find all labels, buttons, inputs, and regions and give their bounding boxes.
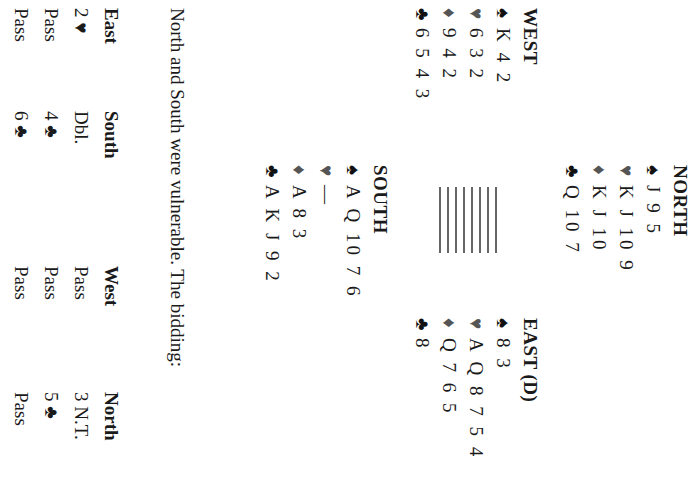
spade-icon: ♠ (640, 165, 667, 185)
bid-west: Pass (40, 266, 62, 300)
north-hearts: K J 10 9 (616, 185, 637, 273)
south-hand: SOUTH ♠A Q 10 7 6 ♥— ♦A 8 3 ♣A K J 9 2 (259, 165, 394, 298)
bid-east: 2 ♥ (70, 8, 92, 34)
east-spades: 8 3 (493, 338, 514, 371)
west-hand: WEST ♠K 4 2 ♥6 3 2 ♦9 4 2 ♣6 5 4 3 (409, 8, 544, 101)
bid-west: Pass (10, 266, 32, 300)
header-south: South (100, 111, 122, 159)
south-clubs: A K J 9 2 (262, 185, 283, 284)
diamond-icon: ♦ (436, 8, 463, 28)
spade-icon: ♠ (490, 318, 517, 338)
bid-north: 3 N.T. (70, 392, 92, 440)
divider (487, 187, 489, 253)
diamond-icon: ♦ (436, 318, 463, 338)
north-hand: NORTH ♠J 9 5 ♥K J 10 9 ♦K J 10 ♣Q 10 7 (559, 165, 694, 273)
club-icon: ♣ (409, 8, 436, 28)
club-icon: ♣ (409, 318, 436, 338)
divider (471, 187, 473, 253)
bid-west: Pass (70, 266, 92, 300)
bid-south: 4 ♣ (40, 111, 62, 138)
south-diamonds: A 8 3 (289, 185, 310, 241)
club-icon: ♣ (559, 165, 586, 185)
spade-icon: ♠ (340, 165, 367, 185)
header-east: East (100, 8, 122, 44)
bid-south: 6 ♣ (10, 111, 32, 138)
west-title: WEST (517, 8, 544, 101)
divider (495, 187, 497, 253)
divider (455, 187, 457, 253)
table-compass-graphic (439, 187, 497, 253)
north-clubs: Q 10 7 (562, 185, 583, 255)
divider (447, 187, 449, 253)
divider (439, 187, 441, 253)
club-icon: ♣ (259, 165, 286, 185)
east-clubs: 8 (412, 338, 433, 351)
north-title: NORTH (667, 165, 694, 273)
bid-east: Pass (40, 8, 62, 42)
west-hearts: 6 3 2 (466, 28, 487, 81)
north-diamonds: K J 10 (589, 185, 610, 253)
south-hearts: — (316, 185, 337, 207)
vulnerability-text: North and South were vulnerable. The bid… (166, 8, 188, 367)
west-spades: K 4 2 (493, 28, 514, 85)
south-spades: A Q 10 7 6 (343, 185, 364, 298)
bid-north: Pass (10, 392, 32, 426)
header-west: West (100, 266, 122, 306)
divider (479, 187, 481, 253)
heart-icon: ♥ (463, 318, 490, 338)
bid-south: Dbl. (70, 111, 92, 144)
heart-icon: ♥ (313, 165, 340, 185)
heart-icon: ♥ (613, 165, 640, 185)
east-title: EAST (D) (517, 318, 544, 459)
bid-east: Pass (10, 8, 32, 42)
heart-icon: ♥ (463, 8, 490, 28)
diamond-icon: ♦ (286, 165, 313, 185)
north-spades: J 9 5 (643, 185, 664, 236)
south-title: SOUTH (367, 165, 394, 298)
east-hand: EAST (D) ♠8 3 ♥A Q 8 7 5 4 ♦Q 7 6 5 ♣8 (409, 318, 544, 459)
west-diamonds: 9 4 2 (439, 28, 460, 81)
bid-north: 5 ♣ (40, 392, 62, 419)
header-north: North (100, 392, 122, 441)
bridge-diagram-page: NORTH ♠J 9 5 ♥K J 10 9 ♦K J 10 ♣Q 10 7 W… (0, 0, 700, 500)
east-hearts: A Q 8 7 5 4 (466, 338, 487, 459)
diamond-icon: ♦ (586, 165, 613, 185)
divider (463, 187, 465, 253)
east-diamonds: Q 7 6 5 (439, 338, 460, 415)
spade-icon: ♠ (490, 8, 517, 28)
west-clubs: 6 5 4 3 (412, 28, 433, 101)
